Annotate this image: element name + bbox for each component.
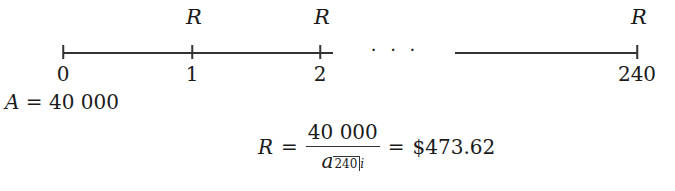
timeline-segment-left: [63, 52, 333, 54]
payment-label-1: R: [186, 5, 202, 29]
payment-label-240: R: [631, 5, 647, 29]
timeline-ellipsis: · · ·: [371, 39, 420, 60]
fraction-denominator: a240i: [321, 147, 364, 173]
formula-result: $473.62: [413, 135, 496, 159]
tick-0: [62, 45, 64, 59]
formula-equals-2: =: [388, 135, 405, 159]
tick-1: [191, 45, 193, 59]
annuity-symbol: a: [321, 149, 333, 173]
present-value-equation: A = 40 000: [5, 90, 119, 114]
formula-lhs: R: [258, 135, 273, 159]
tick-label-0: 0: [57, 62, 70, 86]
fraction: 40 000 a240i: [306, 120, 380, 173]
annuity-n: 240: [333, 156, 360, 171]
tick-label-1: 1: [186, 62, 199, 86]
annuity-subscript: 240i: [333, 156, 364, 171]
tick-label-2: 2: [314, 62, 327, 86]
fraction-numerator: 40 000: [306, 120, 380, 147]
tick-240: [636, 45, 638, 59]
tick-label-240: 240: [618, 62, 656, 86]
present-value-symbol: A: [5, 90, 19, 114]
annuity-i: i: [360, 157, 364, 171]
formula-equals: =: [281, 135, 298, 159]
timeline-segment-right: [455, 52, 637, 54]
present-value-amount: 40 000: [49, 90, 119, 114]
payment-formula: R = 40 000 a240i = $473.62: [258, 120, 495, 173]
equals-sign: =: [26, 90, 43, 114]
payment-label-2: R: [314, 5, 330, 29]
tick-2: [319, 45, 321, 59]
